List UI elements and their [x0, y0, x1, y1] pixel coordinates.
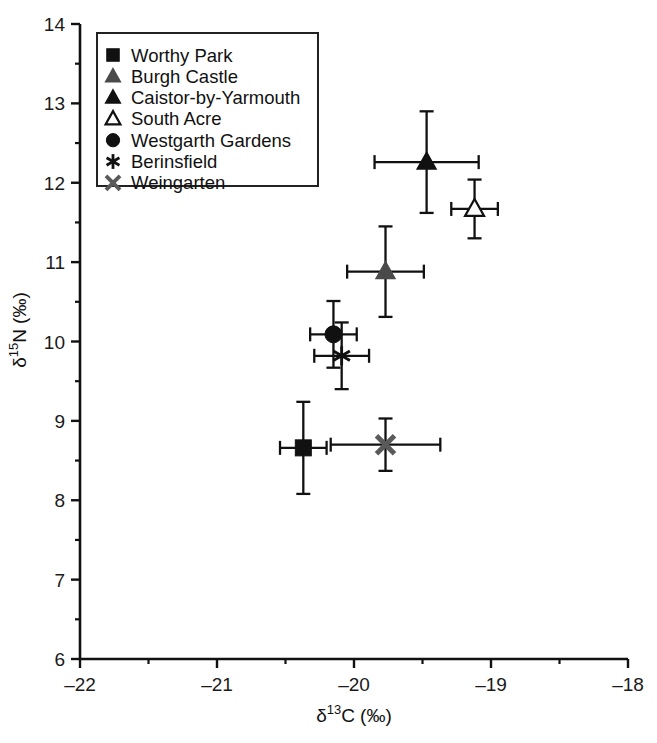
y-tick-label: 12: [44, 173, 65, 194]
legend-label: South Acre: [131, 108, 222, 129]
x-axis-superscript: 13: [327, 702, 341, 717]
legend-label: Caistor-by-Yarmouth: [131, 87, 300, 108]
legend-label: Weingarten: [131, 172, 225, 193]
y-axis-superscript: 15: [6, 343, 21, 357]
legend-marker-square: [107, 49, 119, 61]
legend-label: Westgarth Gardens: [131, 130, 291, 151]
legend: Worthy ParkBurgh CastleCaistor-by-Yarmou…: [97, 33, 318, 193]
y-tick-label: 9: [54, 411, 65, 432]
legend-marker-circle: [106, 134, 119, 147]
y-tick-label: 8: [54, 490, 65, 511]
data-point-marker: [295, 440, 311, 456]
y-tick-label: 7: [54, 570, 65, 591]
legend-label: Worthy Park: [131, 45, 233, 66]
y-tick-label: 11: [45, 252, 65, 273]
x-tick-label: –22: [64, 674, 96, 695]
plot-svg: 67891011121314–22–21–20–19–18 δ13C(‰) δ1…: [0, 0, 657, 743]
x-axis-delta: δ: [316, 705, 327, 726]
data-point-marker: [325, 326, 342, 343]
x-axis-element: C: [341, 705, 355, 726]
scatter-plot-figure: 67891011121314–22–21–20–19–18 δ13C(‰) δ1…: [0, 0, 657, 743]
y-tick-label: 10: [44, 332, 65, 353]
legend-label: Berinsfield: [131, 151, 217, 172]
y-tick-label: 6: [54, 649, 65, 670]
x-tick-label: –21: [201, 674, 233, 695]
y-axis-delta: δ: [9, 357, 30, 368]
y-tick-label: 13: [44, 93, 65, 114]
x-tick-label: –18: [612, 674, 644, 695]
x-axis-units: (‰): [360, 705, 392, 726]
y-axis-element: N: [9, 329, 30, 343]
x-tick-label: –19: [475, 674, 507, 695]
y-tick-label: 14: [44, 14, 66, 35]
x-tick-label: –20: [338, 674, 370, 695]
y-axis-units: (‰): [9, 292, 30, 324]
legend-label: Burgh Castle: [131, 66, 238, 87]
